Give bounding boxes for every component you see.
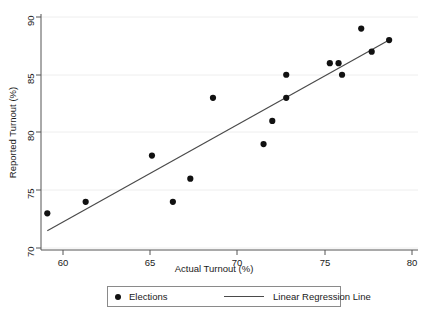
data-point (358, 25, 364, 31)
legend-label-regression-line: Linear Regression Line (273, 291, 371, 302)
x-axis-title: Actual Turnout (%) (0, 263, 428, 274)
data-point (339, 72, 345, 78)
data-point (269, 118, 275, 124)
y-tick-label-85: 85 (25, 74, 36, 94)
data-point (335, 60, 341, 66)
data-point (369, 49, 375, 55)
data-point (327, 60, 333, 66)
data-point (210, 95, 216, 101)
y-tick-label-90: 90 (25, 16, 36, 36)
data-point (187, 176, 193, 182)
y-tick-label-75: 75 (25, 189, 36, 209)
legend-marker-dot-icon (115, 294, 121, 300)
y-axis-title: Reported Turnout (%) (7, 68, 18, 198)
legend-label-elections: Elections (129, 291, 168, 302)
legend-marker-line-icon (224, 296, 264, 297)
y-tick-label-80: 80 (25, 131, 36, 151)
data-point (83, 199, 89, 205)
legend-entry-elections: Elections (115, 287, 168, 306)
regression-line (47, 40, 389, 231)
data-point (44, 210, 50, 216)
data-point (260, 141, 266, 147)
data-point (283, 95, 289, 101)
chart-legend: Elections Linear Regression Line (107, 286, 341, 307)
data-point-group (44, 25, 392, 216)
data-point (386, 37, 392, 43)
data-point (149, 153, 155, 159)
gridlines (41, 17, 418, 248)
data-point (170, 199, 176, 205)
data-point (283, 72, 289, 78)
axes (36, 14, 418, 255)
scatter-plot-figure: 90 85 80 75 70 60 65 70 75 80 Actual Tur… (0, 0, 428, 315)
legend-entry-regression-line: Linear Regression Line (224, 287, 371, 306)
